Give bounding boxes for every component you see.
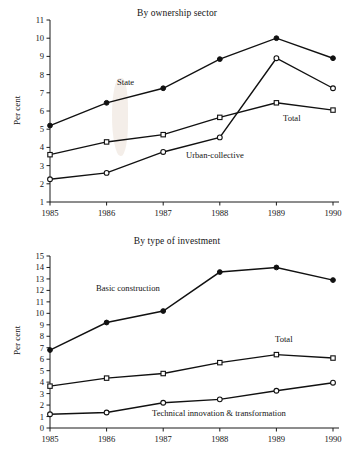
svg-text:14: 14 — [35, 262, 44, 272]
series-label-basic-construction: Basic construction — [96, 283, 160, 293]
svg-text:1990: 1990 — [324, 434, 341, 444]
series-label-urban-collective: Urban-collective — [186, 150, 244, 160]
svg-text:1989: 1989 — [268, 434, 285, 444]
series-label-technical-innovation: Technical innovation & transformation — [152, 408, 286, 418]
svg-text:0: 0 — [40, 423, 44, 433]
svg-text:3: 3 — [40, 389, 44, 399]
svg-text:1986: 1986 — [98, 208, 116, 218]
svg-text:1987: 1987 — [155, 434, 173, 444]
svg-text:10: 10 — [35, 33, 44, 43]
svg-text:2: 2 — [40, 179, 44, 189]
svg-text:6: 6 — [40, 354, 45, 364]
series-label-total-bottom: Total — [275, 334, 293, 344]
plot-area-bottom: 0123456789101112131415198519861987198819… — [0, 230, 354, 460]
series-label-state: State — [117, 77, 134, 87]
svg-text:1987: 1987 — [155, 208, 173, 218]
svg-text:1985: 1985 — [41, 434, 58, 444]
svg-text:8: 8 — [40, 70, 44, 80]
svg-text:6: 6 — [40, 106, 45, 116]
svg-text:5: 5 — [40, 366, 44, 376]
svg-text:1986: 1986 — [98, 434, 116, 444]
svg-text:3: 3 — [40, 161, 44, 171]
svg-text:10: 10 — [35, 308, 44, 318]
svg-text:13: 13 — [35, 274, 44, 284]
svg-text:1: 1 — [40, 197, 44, 207]
svg-text:9: 9 — [40, 51, 44, 61]
series-label-total-top: Total — [283, 113, 301, 123]
svg-text:2: 2 — [40, 400, 44, 410]
svg-text:1988: 1988 — [211, 208, 228, 218]
svg-text:7: 7 — [40, 343, 45, 353]
svg-text:15: 15 — [35, 251, 44, 261]
chart-by-type-of-investment: By type of investment Per cent 012345678… — [0, 230, 354, 460]
svg-text:1985: 1985 — [41, 208, 58, 218]
svg-text:1989: 1989 — [268, 208, 285, 218]
svg-text:11: 11 — [36, 297, 44, 307]
chart-by-ownership-sector: By ownership sector Per cent 12345678910… — [0, 0, 354, 230]
svg-text:5: 5 — [40, 124, 44, 134]
svg-text:9: 9 — [40, 320, 44, 330]
svg-text:8: 8 — [40, 331, 44, 341]
svg-text:1: 1 — [40, 412, 44, 422]
svg-text:4: 4 — [40, 377, 45, 387]
svg-text:7: 7 — [40, 88, 45, 98]
svg-text:12: 12 — [35, 285, 44, 295]
svg-text:1990: 1990 — [324, 208, 341, 218]
svg-text:1988: 1988 — [211, 434, 228, 444]
svg-text:4: 4 — [40, 142, 45, 152]
svg-text:11: 11 — [36, 15, 44, 25]
